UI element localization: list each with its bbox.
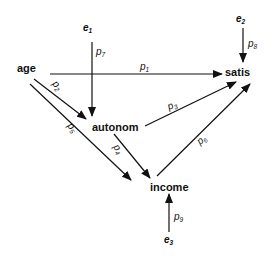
node-age: age bbox=[17, 62, 36, 74]
node-autonom: autonom bbox=[92, 121, 139, 133]
label-p6: p6 bbox=[194, 132, 210, 148]
label-p9: p9 bbox=[173, 211, 184, 223]
error-e3: e3 bbox=[164, 234, 174, 246]
error-e1: e1 bbox=[83, 22, 93, 34]
arrow-p3-autonom-to-satis bbox=[145, 82, 236, 126]
label-p2: p2 bbox=[49, 77, 65, 93]
arrow-p4-autonom-to-income bbox=[114, 134, 150, 178]
label-p7: p7 bbox=[95, 46, 106, 58]
error-e2: e2 bbox=[236, 13, 246, 25]
label-p5: p5 bbox=[64, 119, 80, 135]
path-diagram: age autonom income satis e1 e2 e3 p1 p7 … bbox=[0, 0, 271, 260]
label-p8: p8 bbox=[247, 38, 258, 50]
label-p4: p4 bbox=[110, 141, 126, 157]
node-income: income bbox=[150, 181, 189, 193]
node-satis: satis bbox=[225, 66, 250, 78]
label-p1: p1 bbox=[139, 61, 150, 73]
